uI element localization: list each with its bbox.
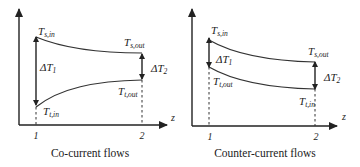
tt-out-label: Tt,out — [118, 85, 139, 99]
delta-t1-label: ΔT1 — [215, 53, 232, 67]
ts-out-label: Ts,out — [124, 36, 145, 50]
tick-label-2: 2 — [314, 131, 319, 142]
counter-current-diagram: z Ts,in Ts,out ΔT1 ΔT2 Tt,out Tt,in 1 2 … — [192, 9, 346, 159]
tt-in-label: Tt,in — [299, 95, 315, 109]
tick-label-1: 1 — [208, 131, 213, 142]
delta-t2-label: ΔT2 — [323, 71, 341, 85]
delta-t2-label: ΔT2 — [150, 62, 168, 76]
heat-exchanger-temperature-profiles: z Ts,in Ts,out ΔT1 ΔT2 Tt,out Tt,in 1 2 … — [0, 0, 360, 167]
delta-t1-label: ΔT1 — [39, 61, 56, 75]
caption-counter-current: Counter-current flows — [214, 147, 316, 159]
tick-label-1: 1 — [34, 130, 39, 141]
z-axis-label: z — [170, 112, 175, 123]
ts-in-label: Ts,in — [38, 25, 55, 39]
z-axis-label: z — [341, 111, 346, 122]
tt-in-label: Tt,in — [43, 105, 59, 119]
ts-in-label: Ts,in — [211, 24, 228, 38]
co-current-diagram: z Ts,in Ts,out ΔT1 ΔT2 Tt,out Tt,in 1 2 … — [19, 9, 175, 159]
caption-co-current: Co-current flows — [51, 147, 130, 159]
ts-out-label: Ts,out — [308, 45, 329, 59]
tick-label-2: 2 — [140, 130, 145, 141]
